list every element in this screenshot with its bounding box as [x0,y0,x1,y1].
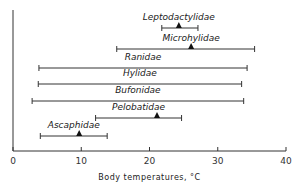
series-label: Ascaphidae [47,120,100,130]
series-label: Ranidae [125,52,162,62]
series-label: Bufonidae [115,85,161,95]
series-label: Pelobatidae [112,102,165,112]
mean-marker-icon [76,130,82,136]
mean-marker-icon [188,43,194,49]
series-label: Leptodactylidae [143,12,216,22]
x-tick-label: 40 [280,156,292,166]
x-axis-title: Body temperatures, °C [98,173,200,182]
x-tick-label: 30 [212,156,224,166]
series-label: Hylidae [123,68,157,78]
mean-marker-icon [154,112,160,118]
x-tick-label: 10 [76,156,88,166]
range-chart: 010203040Body temperatures, °CLeptodacty… [0,0,301,192]
mean-marker-icon [176,22,182,28]
series-label: Microhylidae [163,33,221,43]
x-tick-label: 20 [144,156,156,166]
x-tick-label: 0 [10,156,16,166]
